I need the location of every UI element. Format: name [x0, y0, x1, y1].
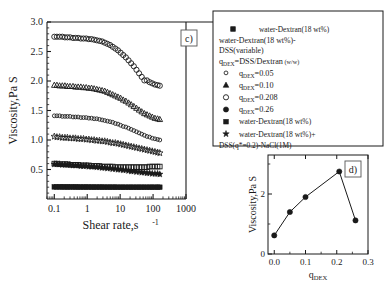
panel-d-x-axis-title: qDEX — [309, 269, 328, 281]
panel-c-label-text: c) — [185, 33, 193, 45]
legend-header-text: water-Dextran(18 wt%) — [259, 25, 330, 34]
panel-d-y-axis-title: Viscosity,Pa S — [247, 176, 258, 233]
legend-group: water-Dextran(18 wt%)water-Dextran(18 wt… — [213, 11, 383, 150]
legend-marker-4 — [224, 119, 229, 124]
data-point — [139, 74, 144, 79]
data-point — [157, 185, 162, 190]
panel-c-series-0 — [52, 34, 163, 88]
panel-c-y-axis-title: Viscosity,Pa S — [6, 76, 20, 145]
legend-subtitle-line2: DSS(variable) — [219, 46, 264, 55]
legend-item-text-4: water-Dextran(18 wt%) — [239, 117, 312, 126]
panel-c-y-tick-label: 1.0 — [31, 134, 44, 145]
panel-c-y-tick-label: 2.5 — [31, 46, 44, 57]
panel-d-data-point — [337, 169, 342, 174]
panel-d-x-tick-label: 0.1 — [300, 257, 311, 267]
panel-c-x-tick-label: 0.1 — [48, 203, 61, 214]
legend-subtitle-line1: water-Dextran(18 wt%)- — [219, 36, 296, 45]
data-point — [134, 67, 139, 72]
legend-marker-header — [231, 27, 236, 32]
figure-panel-c-d: 0.51.01.52.02.53.00.11101001000Shear rat… — [0, 0, 386, 283]
panel-d-label-text: d) — [349, 164, 357, 176]
legend-marker-3 — [223, 107, 228, 112]
panel-c-x-axis-title: Shear rate,s — [83, 218, 139, 232]
legend-item-text-5: water-Dextran(18 wt%)+ — [239, 130, 315, 139]
panel-d-group: 0.00.10.20.302Viscosity,Pa SqDEXd) — [247, 155, 374, 281]
panel-d-data-point — [303, 194, 308, 199]
panel-c-y-tick-label: 3.0 — [31, 16, 44, 27]
panel-c-x-axis-title-exponent: -1 — [152, 218, 159, 227]
panel-d-x-tick-label: 0.0 — [269, 257, 281, 267]
panel-d-y-tick-label: 2 — [261, 189, 266, 199]
panel-c-y-tick-label: 2.0 — [31, 75, 44, 86]
data-point — [136, 71, 141, 76]
panel-c-y-tick-label: 1.5 — [31, 105, 44, 116]
panel-d-x-tick-label: 0.3 — [362, 257, 374, 267]
panel-c-x-tick-label: 100 — [146, 203, 161, 214]
panel-d-y-tick-label: 0 — [261, 249, 266, 259]
panel-d-data-point — [272, 233, 277, 238]
panel-c-group: 0.51.01.52.02.53.00.11101001000Shear rat… — [6, 16, 214, 232]
panel-c-series-6 — [52, 185, 162, 190]
viscosity-figure-svg: 0.51.01.52.02.53.00.11101001000Shear rat… — [0, 0, 386, 283]
panel-c-y-tick-label: 0.5 — [31, 164, 44, 175]
panel-c-x-tick-label: 1000 — [176, 203, 196, 214]
panel-d-data-point — [287, 209, 292, 214]
panel-d-x-tick-label: 0.2 — [331, 257, 342, 267]
panel-c-x-tick-label: 10 — [115, 203, 125, 214]
panel-c-x-tick-label: 1 — [85, 203, 90, 214]
legend-last-line: DSS(q*=0.2)-NaCl(1M) — [219, 141, 292, 150]
panel-d-data-point — [353, 218, 358, 223]
